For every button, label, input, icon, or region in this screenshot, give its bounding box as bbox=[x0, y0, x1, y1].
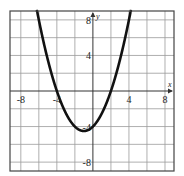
y-tick-label: 4 bbox=[86, 50, 91, 61]
y-axis-arrow-icon bbox=[90, 12, 95, 17]
x-tick-label: -8 bbox=[17, 94, 25, 105]
y-tick-label: 8 bbox=[86, 15, 91, 26]
y-tick-label: -8 bbox=[83, 157, 91, 168]
parabola-curve bbox=[37, 11, 131, 131]
axes: x y bbox=[10, 12, 173, 171]
x-tick-label: 8 bbox=[162, 94, 167, 105]
y-axis-label: y bbox=[95, 12, 100, 21]
x-axis-label: x bbox=[167, 80, 172, 89]
x-axis-arrow-icon bbox=[168, 89, 173, 94]
parabola-chart: x y -8-44884-4-8 bbox=[0, 0, 184, 176]
x-tick-label: 4 bbox=[126, 94, 131, 105]
